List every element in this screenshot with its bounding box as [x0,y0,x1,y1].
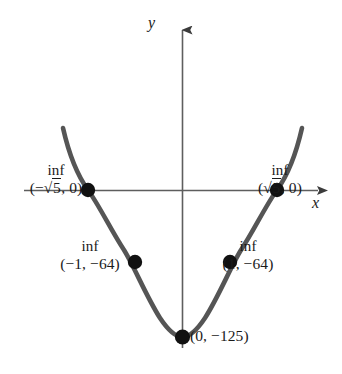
label-minimum-coord: (0, −125) [190,327,249,344]
radicand: 5 [272,178,281,196]
label-minimum: (0, −125) [190,327,249,344]
x-axis-label: x [312,194,319,212]
point-minimum [175,329,190,344]
paren-open: (− [30,179,44,196]
label-inflection-left-coord: (−1, −64) [36,255,144,272]
radicand: 5 [52,178,61,196]
label-root-right: inf (√5, 0) [238,162,322,196]
label-root-right-coord: (√5, 0) [238,179,322,196]
label-inflection-right-tag: inf [198,238,298,255]
function-graph-figure: y x inf (−√5, 0) inf (√5, 0) inf (−1, −6… [0,0,342,374]
label-root-left: inf (−√5, 0) [8,162,104,196]
paren-close: , 0) [61,179,82,196]
paren-close: , 0) [281,179,302,196]
label-root-right-tag: inf [238,162,322,179]
label-inflection-right-coord: (1, −64) [198,255,298,272]
radical-sign: √ [263,179,272,196]
label-inflection-right: inf (1, −64) [198,238,298,272]
label-root-left-tag: inf [8,162,104,179]
y-axis-label: y [148,14,155,32]
label-inflection-left: inf (−1, −64) [36,238,144,272]
label-inflection-left-tag: inf [36,238,144,255]
label-root-left-coord: (−√5, 0) [8,179,104,196]
